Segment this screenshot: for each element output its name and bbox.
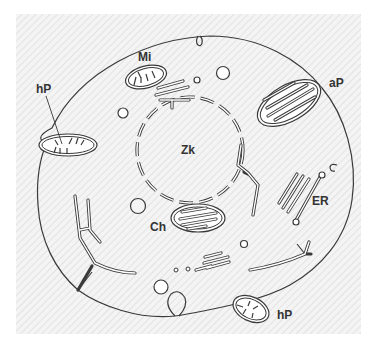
plastid-hp-top-label: hP xyxy=(36,82,51,96)
plastid-ap-label: aP xyxy=(329,76,344,90)
mitochondrion-label: Mi xyxy=(138,50,151,64)
plastid-hp-bottom-label: hP xyxy=(277,308,292,322)
background-hatch xyxy=(16,14,361,334)
cell-diagram: Zk ER xyxy=(0,0,377,346)
nucleus-label: Zk xyxy=(181,143,195,157)
er-label: ER xyxy=(312,194,329,208)
chloroplast-label: Ch xyxy=(150,220,166,234)
